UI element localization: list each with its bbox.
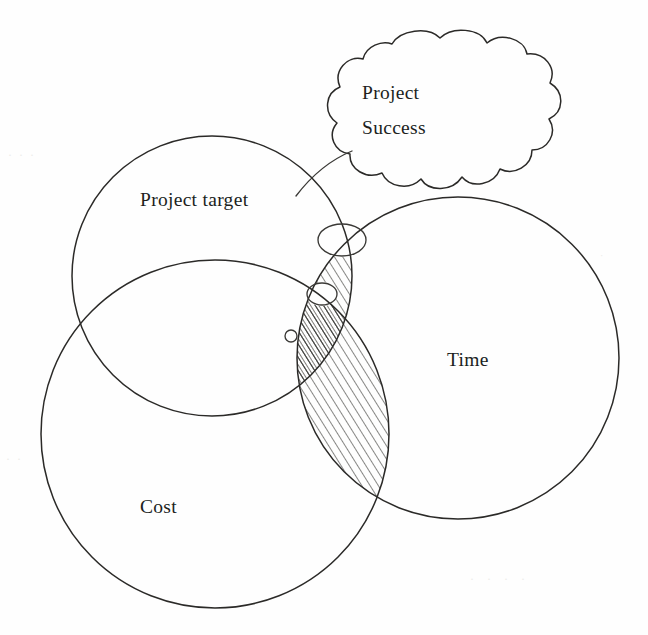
cloud-label-line1: Project — [362, 82, 420, 103]
label-project-target: Project target — [140, 189, 249, 210]
project-success-cloud — [328, 30, 561, 188]
cloud-tail-left — [296, 151, 352, 196]
diagram-canvas: · · · · · · · · · · — [0, 0, 648, 635]
cloud-label-line2: Success — [362, 117, 426, 138]
venn-diagram-svg: Project Success Project target Time Cost — [0, 0, 648, 635]
thought-bubble-small — [285, 330, 297, 342]
label-cost: Cost — [140, 496, 177, 517]
label-time: Time — [447, 349, 489, 370]
